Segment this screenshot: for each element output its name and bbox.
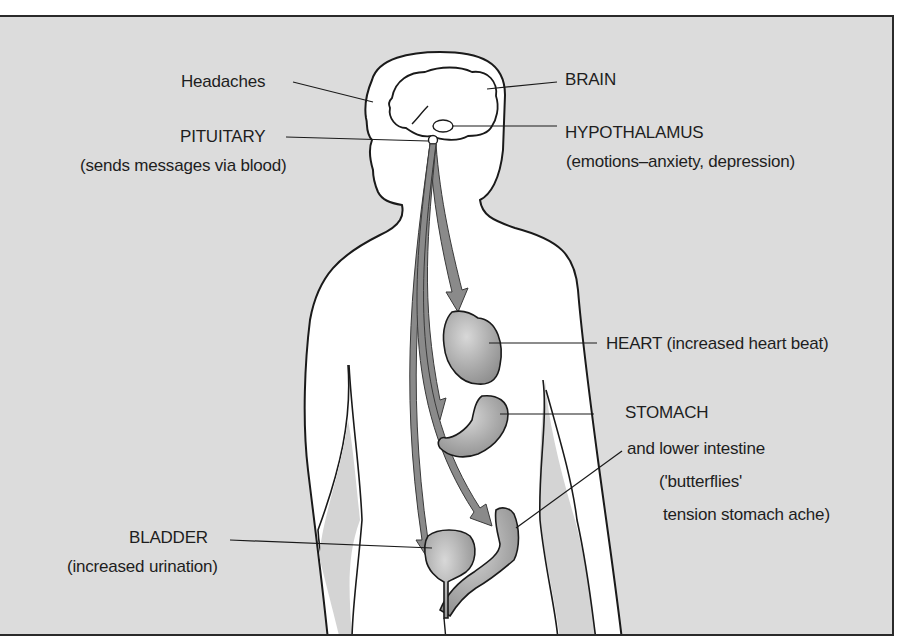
label-stomach-line3: ('butterflies' — [659, 472, 742, 492]
label-stomach: STOMACH — [625, 403, 708, 423]
label-bladder: BLADDER — [129, 528, 208, 548]
label-pituitary: PITUITARY — [180, 127, 265, 147]
hypothalamus — [433, 120, 453, 132]
label-heart: HEART (increased heart beat) — [606, 334, 828, 354]
pituitary — [429, 136, 438, 145]
label-stomach-line4: tension stomach ache) — [663, 505, 830, 525]
label-hypothalamus-note: (emotions–anxiety, depression) — [566, 152, 795, 172]
label-hypothalamus: HYPOTHALAMUS — [565, 123, 703, 143]
label-stomach-line2: and lower intestine — [627, 439, 765, 459]
label-pituitary-note: (sends messages via blood) — [80, 156, 286, 176]
label-headaches: Headaches — [181, 72, 265, 92]
label-bladder-note: (increased urination) — [67, 557, 218, 577]
label-brain: BRAIN — [565, 70, 616, 90]
